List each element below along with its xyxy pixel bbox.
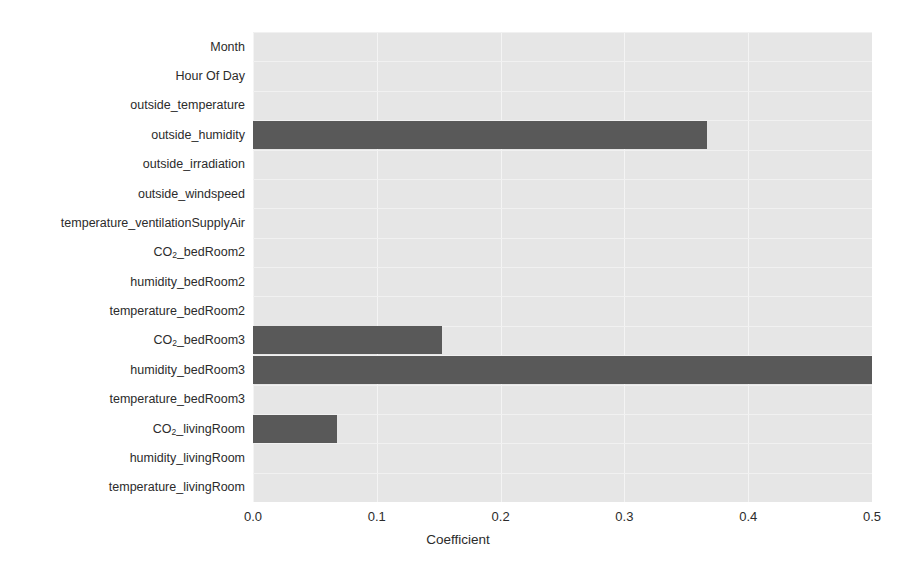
bar-row — [253, 91, 872, 119]
bar-row — [253, 268, 872, 296]
chart-figure: MonthHour Of Dayoutside_temperatureoutsi… — [0, 0, 916, 564]
bar-row — [253, 180, 872, 208]
y-tick-label: humidity_bedRoom3 — [3, 364, 253, 377]
y-tick-label: CO2_bedRoom3 — [3, 334, 253, 347]
bar — [253, 356, 872, 384]
x-tick-label: 0.4 — [739, 509, 757, 524]
y-tick-label: Hour Of Day — [3, 70, 253, 83]
y-tick-label: CO2_bedRoom2 — [3, 246, 253, 259]
x-tick-label: 0.5 — [863, 509, 881, 524]
bar-row — [253, 356, 872, 384]
bar-row — [253, 385, 872, 413]
bar-row — [253, 150, 872, 178]
bar — [253, 415, 337, 443]
x-tick-label: 0.1 — [368, 509, 386, 524]
bar-row — [253, 444, 872, 472]
x-axis-title: Coefficient — [0, 532, 916, 547]
bar-row — [253, 62, 872, 90]
bar-row — [253, 238, 872, 266]
y-tick-label: temperature_bedRoom3 — [3, 393, 253, 406]
y-tick-label: temperature_bedRoom2 — [3, 305, 253, 318]
y-tick-label: temperature_livingRoom — [3, 481, 253, 494]
bar-row — [253, 121, 872, 149]
y-tick-label: outside_windspeed — [3, 188, 253, 201]
bar — [253, 326, 442, 354]
x-tick-label: 0.0 — [244, 509, 262, 524]
y-tick-label: outside_temperature — [3, 99, 253, 112]
bar-row — [253, 33, 872, 61]
y-tick-label: outside_humidity — [3, 129, 253, 142]
bar-row — [253, 326, 872, 354]
bar-row — [253, 415, 872, 443]
bar-row — [253, 297, 872, 325]
y-tick-label: temperature_ventilationSupplyAir — [3, 217, 253, 230]
x-tick-label: 0.2 — [492, 509, 510, 524]
y-tick-label: humidity_bedRoom2 — [3, 276, 253, 289]
bar — [253, 121, 707, 149]
bar-row — [253, 209, 872, 237]
y-tick-label: CO2_livingRoom — [3, 423, 253, 436]
x-tick-label: 0.3 — [615, 509, 633, 524]
plot-area — [253, 32, 872, 502]
y-tick-label: Month — [3, 41, 253, 54]
bar-row — [253, 473, 872, 501]
y-tick-label: humidity_livingRoom — [3, 452, 253, 465]
y-tick-label: outside_irradiation — [3, 158, 253, 171]
